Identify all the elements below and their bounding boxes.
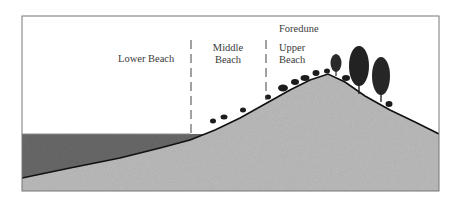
beach-profile-diagram: Lower Beach Middle Beach Foredune Upper … [0, 0, 457, 204]
label-lower-beach: Lower Beach [118, 53, 174, 65]
diagram-canvas [0, 0, 457, 204]
label-foredune: Foredune [279, 23, 319, 35]
label-upper-beach: Upper Beach [279, 42, 305, 66]
label-middle-beach-line1: Middle [208, 42, 248, 54]
label-middle-beach-line2: Beach [208, 54, 248, 66]
label-upper-beach-line2: Beach [279, 54, 305, 66]
label-upper-beach-line1: Upper [279, 42, 305, 54]
label-middle-beach: Middle Beach [208, 42, 248, 66]
tree-small [331, 54, 342, 76]
tree-right [372, 57, 390, 102]
